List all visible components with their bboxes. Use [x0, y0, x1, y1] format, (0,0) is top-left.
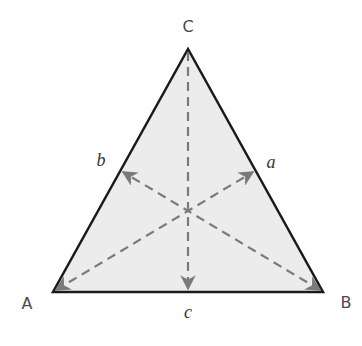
midpoint-label-b: b: [97, 151, 106, 169]
midpoint-label-a: a: [267, 153, 276, 171]
vertex-label-c: C: [182, 19, 193, 35]
diagram-svg: [0, 0, 362, 346]
vertex-label-b: B: [341, 295, 352, 311]
vertex-label-a: A: [22, 296, 33, 312]
triangle-diagram: A B C a b c: [0, 0, 362, 346]
midpoint-label-c: c: [184, 303, 192, 321]
